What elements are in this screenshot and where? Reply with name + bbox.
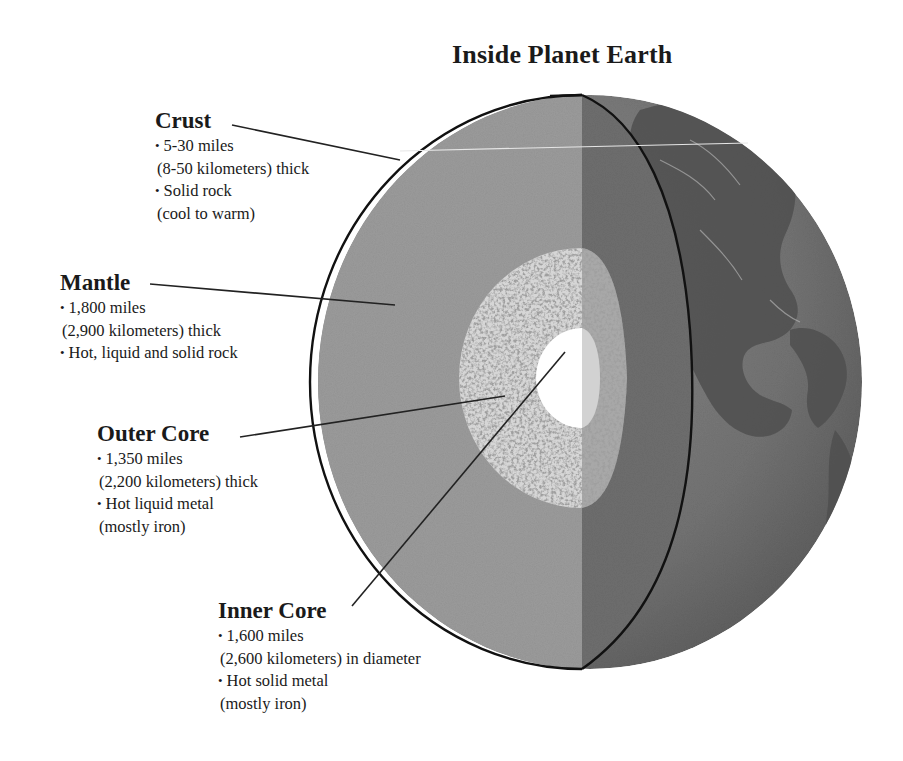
mantle-fact-line: Hot, liquid and solid rock	[60, 342, 238, 365]
crust-fact-line: Solid rock	[155, 180, 309, 203]
outer-core-fact-line: Hot liquid metal	[97, 493, 258, 516]
outer-core-fact-line: 1,350 miles	[97, 448, 258, 471]
label-mantle: Mantle1,800 miles(2,900 kilometers) thic…	[60, 269, 238, 365]
crust-heading: Crust	[155, 107, 309, 135]
outer-core-fact-line: (2,200 kilometers) thick	[97, 471, 258, 493]
inner-core-fact-line: (mostly iron)	[218, 693, 421, 715]
earth-diagram: Inside Planet Earth Crust5-30 miles(8-50…	[0, 0, 903, 761]
crust-fact-line: (8-50 kilometers) thick	[155, 158, 309, 180]
inner-core-fact-line: 1,600 miles	[218, 625, 421, 648]
label-crust: Crust5-30 miles(8-50 kilometers) thickSo…	[155, 107, 309, 225]
inner-core-heading: Inner Core	[218, 597, 421, 625]
outer-core-fact-line: (mostly iron)	[97, 516, 258, 538]
inner-core-fact-line: (2,600 kilometers) in diameter	[218, 648, 421, 670]
diagram-title: Inside Planet Earth	[452, 40, 672, 70]
mantle-fact-line: 1,800 miles	[60, 297, 238, 320]
outer-core-heading: Outer Core	[97, 420, 258, 448]
label-outer-core: Outer Core1,350 miles(2,200 kilometers) …	[97, 420, 258, 538]
earth-cutaway-illustration	[0, 0, 903, 761]
inner-core-fact-line: Hot solid metal	[218, 670, 421, 693]
label-inner-core: Inner Core1,600 miles(2,600 kilometers) …	[218, 597, 421, 715]
crust-fact-line: 5-30 miles	[155, 135, 309, 158]
mantle-heading: Mantle	[60, 269, 238, 297]
crust-fact-line: (cool to warm)	[155, 203, 309, 225]
mantle-fact-line: (2,900 kilometers) thick	[60, 320, 238, 342]
